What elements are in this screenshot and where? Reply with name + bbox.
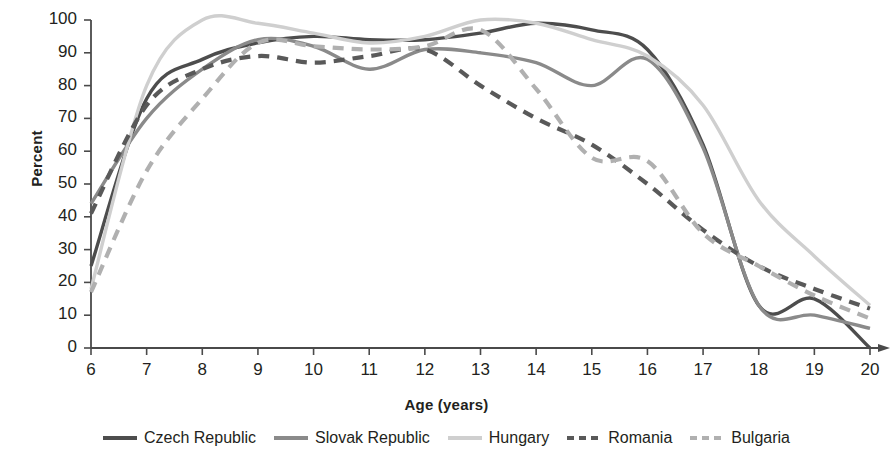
x-tick-15: 15 <box>572 360 612 380</box>
x-tick-19: 19 <box>794 360 834 380</box>
y-tick-80: 80 <box>33 75 77 95</box>
series-lines <box>91 16 870 348</box>
y-tick-30: 30 <box>33 239 77 259</box>
y-tick-10: 10 <box>33 304 77 324</box>
x-tick-13: 13 <box>461 360 501 380</box>
chart-legend: Czech RepublicSlovak RepublicHungaryRoma… <box>0 424 893 452</box>
x-tick-7: 7 <box>127 360 167 380</box>
legend-label: Hungary <box>489 429 549 447</box>
legend-label: Slovak Republic <box>315 429 430 447</box>
legend-swatch-icon <box>103 436 137 440</box>
y-tick-90: 90 <box>33 42 77 62</box>
legend-label: Bulgaria <box>731 429 790 447</box>
legend-item-bulgaria[interactable]: Bulgaria <box>690 429 790 447</box>
x-tick-6: 6 <box>71 360 111 380</box>
x-tick-11: 11 <box>349 360 389 380</box>
y-tick-70: 70 <box>33 107 77 127</box>
x-tick-18: 18 <box>739 360 779 380</box>
series-line-bulgaria <box>91 28 870 318</box>
legend-swatch-icon <box>274 436 308 440</box>
legend-item-czech-republic[interactable]: Czech Republic <box>103 429 256 447</box>
series-line-slovak-republic <box>91 38 870 328</box>
x-tick-17: 17 <box>683 360 723 380</box>
legend-swatch-icon <box>448 436 482 440</box>
y-tick-60: 60 <box>33 140 77 160</box>
x-tick-16: 16 <box>627 360 667 380</box>
series-line-romania <box>91 48 870 309</box>
legend-swatch-icon <box>690 436 724 440</box>
y-tick-20: 20 <box>33 271 77 291</box>
x-tick-9: 9 <box>238 360 278 380</box>
legend-swatch-icon <box>567 436 601 440</box>
line-chart: Percent Age (years) 01020304050607080901… <box>0 0 893 452</box>
x-tick-12: 12 <box>405 360 445 380</box>
plot-area <box>0 0 893 452</box>
x-tick-8: 8 <box>182 360 222 380</box>
y-tick-40: 40 <box>33 206 77 226</box>
legend-label: Czech Republic <box>144 429 256 447</box>
series-line-czech-republic <box>91 23 870 348</box>
y-tick-100: 100 <box>33 9 77 29</box>
legend-item-hungary[interactable]: Hungary <box>448 429 549 447</box>
y-tick-0: 0 <box>33 337 77 357</box>
legend-label: Romania <box>608 429 672 447</box>
legend-item-slovak-republic[interactable]: Slovak Republic <box>274 429 430 447</box>
x-tick-20: 20 <box>850 360 890 380</box>
x-axis-title: Age (years) <box>0 396 893 413</box>
x-tick-10: 10 <box>294 360 334 380</box>
x-tick-14: 14 <box>516 360 556 380</box>
y-tick-50: 50 <box>33 173 77 193</box>
legend-item-romania[interactable]: Romania <box>567 429 672 447</box>
